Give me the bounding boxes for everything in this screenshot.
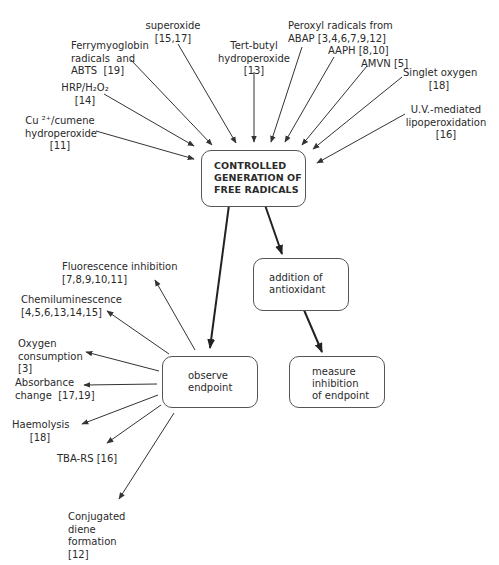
endpoint-fluorescence: Fluorescence inhibition [7,8,9,10,11] [62,261,178,286]
source-amvn: AMVN [5] [361,58,408,71]
source-ferrymyoglobin: Ferrymyoglobin radicals and ABTS [19] [71,40,149,78]
endpoint-oxygen-consumption: Oxygen consumption [3] [18,338,83,376]
arrow-to-measure [304,310,322,352]
central-box-label: CONTROLLED GENERATION OF FREE RADICALS [214,160,302,196]
source-cu-cumene: Cu ²⁺/cumene hydroperoxide [11] [25,115,95,153]
arrow-aaph [285,57,334,142]
endpoint-absorbance: Absorbance change [17,19] [15,377,95,402]
measure-inhibition-box: measure inhibition of endpoint [289,356,385,408]
arrow-cu-cumene [96,131,194,159]
arrow-uv [317,114,405,163]
measure-box-label: measure inhibition of endpoint [312,366,369,402]
observe-endpoint-box: observe endpoint [162,356,258,408]
endpoint-tbars: TBA-RS [16] [57,453,117,466]
source-superoxide: superoxide [15,17] [143,20,203,45]
arrow-amvn [302,66,367,145]
source-hrp-h2o2: HRP/H₂O₂ [14] [60,82,110,107]
antioxidant-box: addition of antioxidant [253,258,349,311]
arrow-conjugated-diene [119,413,174,499]
arrow-absorbance [84,384,157,385]
source-aaph: AAPH [8,10] [328,45,389,58]
arrow-singlet-oxygen [313,77,402,149]
central-box-free-radical-generation: CONTROLLED GENERATION OF FREE RADICALS [201,150,306,207]
arrow-to-observe [210,205,229,348]
endpoint-chemiluminescence: Chemiluminescence [4,5,6,13,14,15] [21,294,122,319]
source-singlet-oxygen: Singlet oxygen [18] [403,67,475,92]
arrow-oxygen [86,352,159,371]
source-abap: Peroxyl radicals from ABAP [3,4,6,7,9,12… [288,20,393,45]
source-uv-lipoperoxidation: U.V.-mediated lipoperoxidation [16] [405,104,487,142]
observe-box-label: observe endpoint [188,370,232,394]
source-tert-butyl: Tert-butyl hydroperoxide [13] [218,40,290,78]
endpoint-haemolysis: Haemolysis [18] [12,419,68,444]
endpoint-conjugated-diene: Conjugated diene formation [12] [68,511,125,561]
arrow-fluorescence [155,280,195,350]
arrow-hrp [104,94,194,146]
antioxidant-assay-diagram: CONTROLLED GENERATION OF FREE RADICALS a… [0,0,499,565]
arrow-to-antioxidant [265,205,282,254]
arrow-tbars [107,405,161,443]
antioxidant-box-label: addition of antioxidant [269,272,325,296]
